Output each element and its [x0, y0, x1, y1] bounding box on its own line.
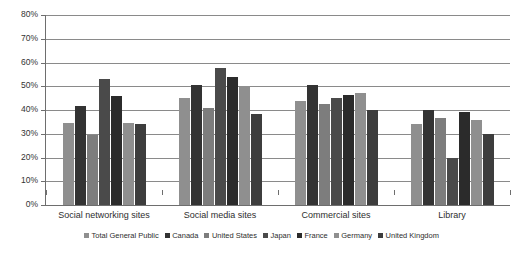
bar [111, 96, 122, 205]
bar [239, 86, 250, 205]
category-label: Social media sites [162, 210, 278, 220]
bar [251, 114, 262, 205]
bar-group [162, 15, 278, 205]
legend-label: Canada [172, 232, 198, 240]
category-label: Library [394, 210, 510, 220]
x-axis-tick [278, 190, 279, 195]
y-axis-label: 80% [0, 10, 38, 19]
x-axis-tick [46, 190, 47, 195]
bar [411, 124, 422, 205]
bar-group [278, 15, 394, 205]
legend-swatch-icon [204, 233, 209, 238]
legend-swatch-icon [84, 233, 89, 238]
bar [191, 85, 202, 205]
legend-swatch-icon [263, 233, 268, 238]
legend-label: United States [212, 232, 257, 240]
bar [179, 98, 190, 205]
x-axis-tick [510, 190, 511, 195]
bar [367, 110, 378, 205]
y-axis-label: 60% [0, 58, 38, 67]
legend-item[interactable]: France [297, 232, 328, 240]
y-axis-label: 30% [0, 129, 38, 138]
legend-label: Total General Public [92, 232, 159, 240]
bar [331, 98, 342, 205]
bar-group [394, 15, 510, 205]
bar [99, 79, 110, 205]
y-axis-label: 0% [0, 200, 38, 209]
y-axis-label: 40% [0, 105, 38, 114]
y-axis-label: 50% [0, 81, 38, 90]
x-axis-tick [394, 190, 395, 195]
bar [355, 93, 366, 205]
bar-group [46, 15, 162, 205]
gridline-0 [46, 205, 510, 206]
bar [423, 110, 434, 205]
x-axis-tick [162, 190, 163, 195]
legend-item[interactable]: Total General Public [84, 232, 159, 240]
y-axis-label: 10% [0, 176, 38, 185]
legend-label: France [304, 232, 327, 240]
bar [135, 124, 146, 205]
legend-swatch-icon [297, 233, 302, 238]
bar [343, 95, 354, 205]
category-labels: Social networking sitesSocial media site… [46, 210, 510, 220]
bar [227, 77, 238, 205]
bar [63, 123, 74, 205]
bar [307, 85, 318, 205]
chart-legend: Total General PublicCanadaUnited StatesJ… [0, 232, 523, 240]
legend-item[interactable]: United Kingdom [378, 232, 439, 240]
bar [295, 101, 306, 206]
bar [319, 104, 330, 205]
legend-label: United Kingdom [386, 232, 439, 240]
bar-groups [46, 15, 510, 205]
bar [471, 120, 482, 206]
legend-item[interactable]: Canada [165, 232, 199, 240]
bar [123, 123, 134, 205]
bar [203, 108, 214, 205]
category-label: Commercial sites [278, 210, 394, 220]
bar [435, 118, 446, 205]
bar [87, 135, 98, 205]
bar [75, 106, 86, 205]
bar [447, 158, 458, 206]
category-label: Social networking sites [46, 210, 162, 220]
legend-label: Japan [270, 232, 290, 240]
legend-swatch-icon [334, 233, 339, 238]
bar [215, 68, 226, 205]
legend-item[interactable]: United States [204, 232, 257, 240]
y-axis-label: 70% [0, 34, 38, 43]
bar [483, 134, 494, 205]
legend-swatch-icon [165, 233, 170, 238]
y-axis-label: 20% [0, 153, 38, 162]
legend-label: Germany [341, 232, 372, 240]
bar-chart: 0%10%20%30%40%50%60%70%80% Social networ… [0, 0, 523, 260]
legend-item[interactable]: Japan [263, 232, 291, 240]
legend-swatch-icon [378, 233, 383, 238]
plot-area [46, 15, 510, 205]
bar [459, 112, 470, 205]
legend-item[interactable]: Germany [334, 232, 372, 240]
